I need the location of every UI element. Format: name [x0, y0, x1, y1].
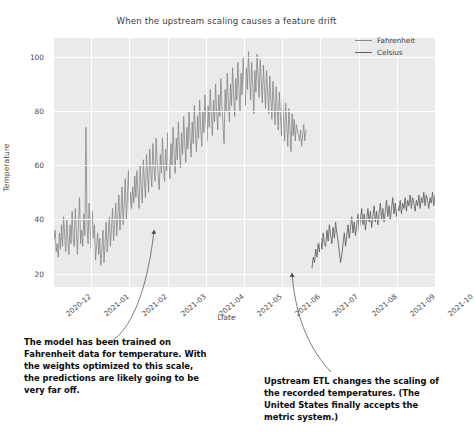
y-tick-label: 80 [2, 107, 44, 116]
plot-area [53, 38, 435, 287]
gridline-horizontal [53, 274, 435, 275]
gridline-vertical [282, 38, 283, 287]
arrow-celsius-note [292, 274, 331, 372]
gridline-horizontal [53, 165, 435, 166]
legend-item-fahrenheit: Fahrenheit [355, 36, 415, 45]
legend-label-celsius: Celsius [377, 48, 402, 57]
legend-line-icon-celsius [355, 52, 372, 53]
y-axis-label: Temperature [2, 143, 11, 191]
gridline-vertical [53, 38, 54, 287]
annotation-fahrenheit-note: The model has been trained on Fahrenheit… [24, 336, 210, 396]
annotation-celsius-note: Upstream ETL changes the scaling of the … [264, 375, 450, 423]
gridline-vertical [206, 38, 207, 287]
y-tick-label: 20 [2, 269, 44, 278]
gridline-vertical [320, 38, 321, 287]
series-line-celsius [312, 192, 435, 268]
x-axis-label: Date [0, 313, 453, 322]
chart-legend: Fahrenheit Celsius [355, 36, 415, 57]
gridline-horizontal [53, 219, 435, 220]
y-tick-label: 40 [2, 215, 44, 224]
chart-title: When the upstream scaling causes a featu… [0, 16, 453, 26]
gridline-horizontal [53, 57, 435, 58]
legend-label-fahrenheit: Fahrenheit [377, 36, 415, 45]
gridline-vertical [91, 38, 92, 287]
gridline-vertical [359, 38, 360, 287]
gridline-vertical [244, 38, 245, 287]
y-tick-label: 100 [2, 52, 44, 61]
gridline-vertical [129, 38, 130, 287]
legend-item-celsius: Celsius [355, 48, 415, 57]
legend-line-icon-fahrenheit [355, 40, 372, 41]
gridline-horizontal [53, 111, 435, 112]
gridline-vertical [168, 38, 169, 287]
gridline-vertical [397, 38, 398, 287]
